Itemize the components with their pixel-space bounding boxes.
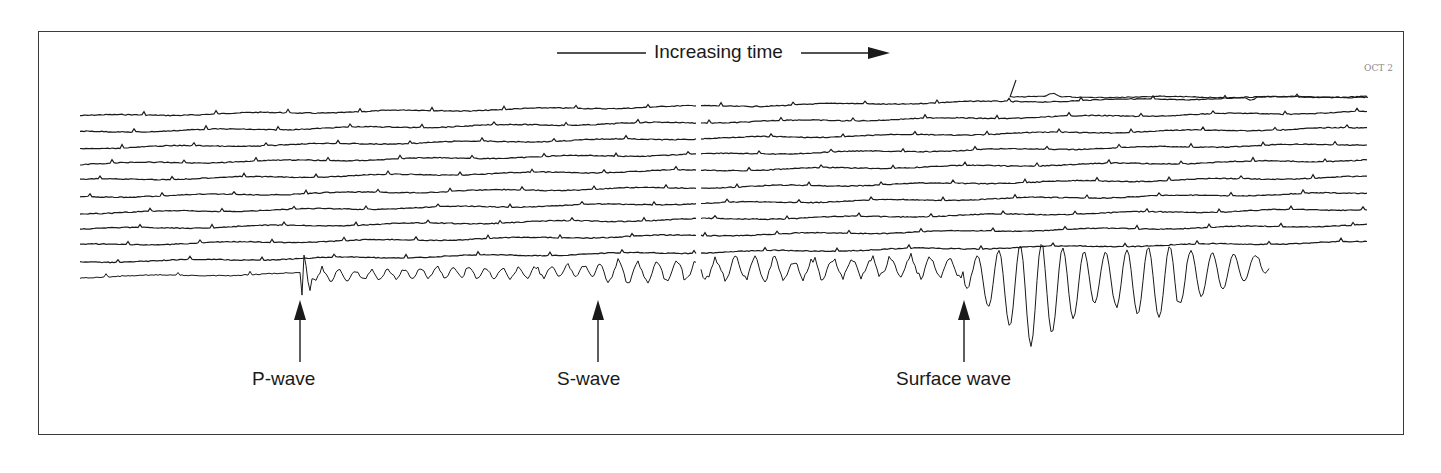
wave-arrows (0, 0, 1441, 473)
surface-wave-label: Surface wave (896, 368, 1011, 390)
p-wave-label: P-wave (252, 368, 315, 390)
arrowhead-up-icon (294, 300, 306, 320)
s-wave-label: S-wave (557, 368, 620, 390)
arrowhead-up-icon (958, 300, 970, 320)
arrowhead-up-icon (592, 300, 604, 320)
